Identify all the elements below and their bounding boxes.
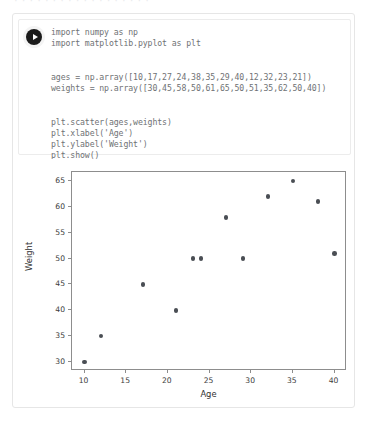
clipped-top-text-value: · · · · · · · · · · · · · · · · · · [0,0,367,6]
y-tick-label: 50 [55,253,65,262]
scatter-point [316,199,321,204]
code-line: plt.xlabel('Age') [51,128,133,138]
code-line: weights = np.array([30,45,58,50,61,65,50… [51,83,326,93]
y-tick-mark [68,309,71,310]
y-tick-mark [68,283,71,284]
scatter-point [199,256,204,261]
scatter-point [224,215,229,220]
y-tick-mark [68,361,71,362]
scatter-point [332,251,337,256]
scatter-point [141,282,146,287]
plot-axes-frame [71,171,346,370]
scatter-point [82,360,87,365]
x-tick-mark [334,370,335,373]
code-line: ages = np.array([10,17,27,24,38,35,29,40… [51,72,312,82]
code-line: plt.ylabel('Weight') [51,139,148,149]
x-tick-label: 20 [162,376,172,385]
y-tick-label: 65 [55,176,65,185]
y-tick-mark [68,232,71,233]
code-line-blank [51,94,346,105]
clipped-top-text: · · · · · · · · · · · · · · · · · · [0,0,367,11]
scatter-point [241,256,246,261]
scatter-point [266,194,271,199]
x-tick-label: 30 [245,376,255,385]
code-line: import numpy as np [51,27,138,37]
y-tick-label: 35 [55,331,65,340]
y-tick-label: 40 [55,305,65,314]
scatter-point [99,334,104,339]
scatter-point [174,308,179,313]
x-axis-label: Age [71,389,346,399]
scatter-plot-figure: 3035404550556065 10152025303540 Age Weig… [18,159,351,404]
scatter-point [291,179,296,184]
y-tick-label: 55 [55,227,65,236]
code-line-blank [51,49,346,60]
notebook-card: import numpy as np import matplotlib.pyp… [12,13,355,408]
code-cell[interactable]: import numpy as np import matplotlib.pyp… [18,19,351,155]
x-tick-mark [292,370,293,373]
y-tick-label: 60 [55,201,65,210]
y-tick-mark [68,258,71,259]
x-tick-mark [167,370,168,373]
x-tick-label: 35 [287,376,297,385]
x-tick-mark [250,370,251,373]
x-tick-mark [209,370,210,373]
code-line: plt.scatter(ages,weights) [51,117,172,127]
y-axis-label: Weight [24,242,34,271]
x-tick-mark [125,370,126,373]
y-tick-mark [68,206,71,207]
x-tick-mark [84,370,85,373]
run-cell-play-icon[interactable] [26,29,42,45]
x-tick-label: 40 [329,376,339,385]
x-tick-label: 10 [79,376,89,385]
y-tick-label: 30 [55,356,65,365]
x-tick-label: 25 [204,376,214,385]
x-tick-label: 15 [120,376,130,385]
code-content[interactable]: import numpy as np import matplotlib.pyp… [51,27,346,161]
play-triangle-icon [33,34,38,40]
scatter-point [191,256,196,261]
y-tick-mark [68,180,71,181]
y-tick-label: 45 [55,279,65,288]
y-tick-mark [68,335,71,336]
code-line: import matplotlib.pyplot as plt [51,38,201,48]
